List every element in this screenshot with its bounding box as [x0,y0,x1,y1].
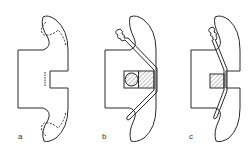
figure-c-square-wire [210,74,224,88]
figure-c-label: c [189,132,193,141]
figure-a-profile [18,16,68,142]
figure-a-label: a [18,132,23,141]
figure-c [191,16,240,142]
figure-b-twisted-end [116,29,128,41]
figure-a [18,16,68,142]
figure-b [105,16,157,142]
figure-b-square-wire [139,71,155,88]
figure-b-label: b [102,132,107,141]
figure-b-round-wire [125,73,138,86]
diagram-canvas: a b c [0,0,249,148]
